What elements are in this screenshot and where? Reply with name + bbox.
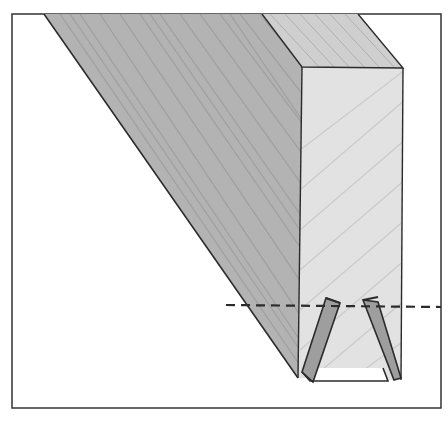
woodworking-illustration [0,0,448,424]
removed-waste [310,368,387,380]
